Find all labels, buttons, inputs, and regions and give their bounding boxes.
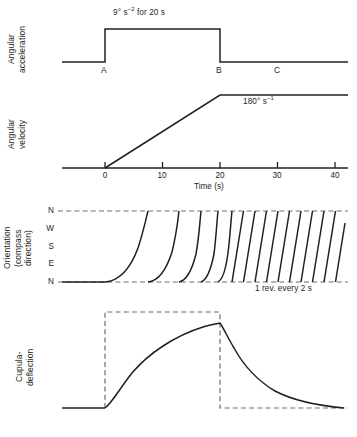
panel-orientation: Orientation (compass direction) N W S E …	[0, 200, 357, 300]
xtick-0: 0	[95, 171, 115, 180]
vestibular-response-figure: Angular acceleration 9° s−2 for 20 s A B…	[0, 0, 357, 437]
cupula-trace-wrap	[0, 305, 357, 430]
cupula-reference-box	[105, 312, 348, 408]
xtick-40: 40	[325, 171, 345, 180]
velocity-trace	[105, 95, 348, 168]
marker-b: B	[216, 65, 222, 75]
cupula-trace	[62, 323, 344, 408]
velocity-trace-wrap	[0, 85, 357, 195]
xtick-10: 10	[152, 171, 172, 180]
xtick-20: 20	[210, 171, 230, 180]
axis-label-time: Time (s)	[194, 182, 224, 191]
xtick-30: 30	[267, 171, 287, 180]
orientation-annotation: 1 rev. every 2 s	[255, 284, 312, 293]
panel-cupula-deflection: Cupula- deflection	[0, 305, 357, 430]
marker-a: A	[101, 65, 107, 75]
acceleration-trace	[62, 29, 348, 62]
panel-angular-velocity: Angular velocity 180° s−1 0 10 20 3	[0, 85, 357, 195]
velocity-x-ticks	[105, 162, 335, 168]
marker-c: C	[274, 65, 280, 75]
orientation-sawtooth	[62, 211, 345, 282]
